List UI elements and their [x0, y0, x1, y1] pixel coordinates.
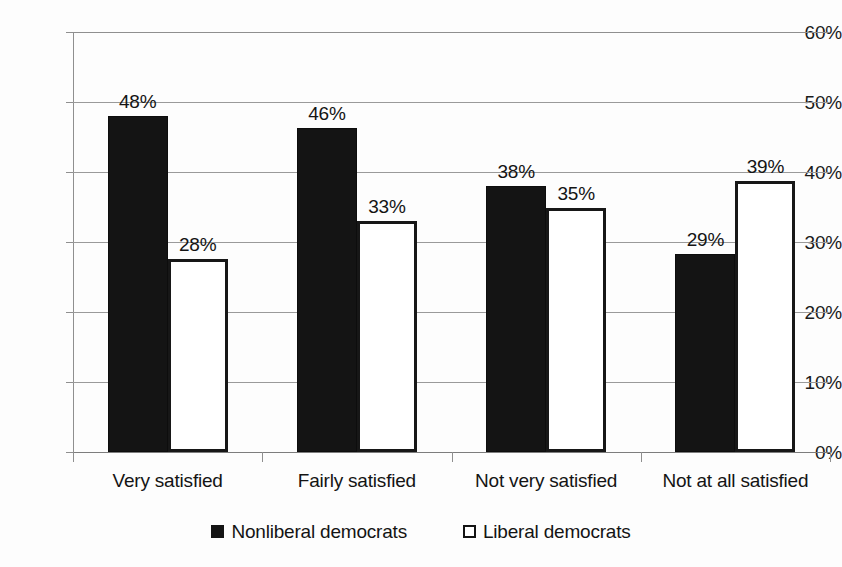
- bar-value-label: 38%: [474, 162, 558, 181]
- bar-1-0[interactable]: [168, 259, 228, 452]
- bar-0-1[interactable]: [297, 128, 357, 452]
- x-axis-tick-mark: [452, 452, 453, 462]
- outlined-square-icon: [463, 525, 476, 538]
- gridline-50pct: [73, 102, 830, 103]
- bar-value-label: 46%: [285, 104, 369, 123]
- plot-area: 48%28%46%33%38%35%29%39%: [73, 32, 830, 452]
- bar-value-label: 35%: [534, 184, 618, 203]
- bar-value-label: 48%: [96, 92, 180, 111]
- x-axis-tick-mark: [641, 452, 642, 462]
- x-axis-tick-mark: [830, 452, 831, 462]
- bar-1-3[interactable]: [735, 181, 795, 452]
- bar-value-label: 39%: [723, 157, 807, 176]
- bar-chart: 0%10%20%30%40%50%60% 48%28%46%33%38%35%2…: [0, 0, 842, 567]
- x-axis-tick-mark: [262, 452, 263, 462]
- bar-value-label: 28%: [156, 235, 240, 254]
- bar-1-2[interactable]: [546, 208, 606, 452]
- gridline-60pct: [73, 32, 830, 33]
- x-axis-category-label: Not very satisfied: [452, 470, 641, 492]
- legend-item-0[interactable]: Nonliberal democrats: [211, 522, 407, 541]
- gridline-40pct: [73, 172, 830, 173]
- x-axis-tick-mark: [73, 452, 74, 462]
- bar-0-3[interactable]: [675, 254, 735, 452]
- x-axis-category-label: Very satisfied: [73, 470, 262, 492]
- filled-square-icon: [211, 525, 224, 538]
- chart-legend: Nonliberal democratsLiberal democrats: [0, 522, 842, 541]
- legend-label: Liberal democrats: [483, 522, 631, 541]
- bar-1-1[interactable]: [357, 221, 417, 452]
- legend-item-1[interactable]: Liberal democrats: [463, 522, 631, 541]
- bar-0-2[interactable]: [486, 186, 546, 452]
- x-axis-category-label: Fairly satisfied: [262, 470, 451, 492]
- legend-label: Nonliberal democrats: [231, 522, 407, 541]
- bar-value-label: 33%: [345, 197, 429, 216]
- bar-0-0[interactable]: [108, 116, 168, 452]
- x-axis-category-label: Not at all satisfied: [641, 470, 830, 492]
